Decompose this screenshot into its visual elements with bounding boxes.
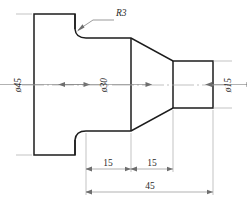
dim-text-length-taper: 15 (147, 158, 157, 168)
radius-leader-group (77, 20, 114, 32)
dim-text-length-total: 45 (145, 181, 155, 191)
dim-text-diameter-pin: ø15 (223, 78, 233, 94)
technical-drawing-canvas: ø45 ø30 ø15 15 15 45 R3 (0, 0, 247, 204)
engineering-drawing-svg: ø45 ø30 ø15 15 15 45 R3 (0, 0, 247, 204)
dim-text-fillet-radius: R3 (115, 8, 127, 18)
leader-arrow-fillet (77, 24, 85, 31)
leader-line-fillet-radius (78, 20, 114, 30)
dim-text-length-shaft: 15 (103, 158, 113, 168)
dim-text-diameter-flange: ø45 (13, 78, 23, 94)
dim-text-diameter-shaft: ø30 (99, 78, 109, 94)
